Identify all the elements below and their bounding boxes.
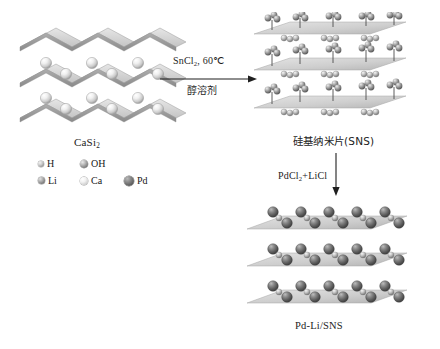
legend-label-pd: Pd bbox=[137, 175, 148, 186]
legend-item-h: H bbox=[38, 158, 80, 169]
reaction2-arrow bbox=[330, 153, 344, 197]
pd-layer-bottom bbox=[247, 281, 407, 303]
reaction1-reagent: SnCl2, 60℃ bbox=[173, 55, 224, 67]
reaction-scheme-canvas: CaSi2 H OH Li Ca Pd bbox=[0, 0, 440, 349]
sns-h-atoms bbox=[281, 35, 379, 42]
reaction1-condition: 醇溶剂 bbox=[187, 82, 218, 97]
ca-sphere-icon bbox=[80, 177, 88, 185]
legend-row: Li Ca Pd bbox=[38, 172, 198, 189]
legend-label-li: Li bbox=[48, 175, 57, 186]
sns-h-atoms bbox=[281, 109, 379, 116]
label-pd-li-sns: Pd-Li/SNS bbox=[295, 320, 343, 331]
legend-item-pd: Pd bbox=[124, 175, 148, 186]
label-sns: 硅基纳米片(SNS) bbox=[293, 133, 374, 148]
casi2-layer-bottom bbox=[20, 92, 186, 122]
h-sphere-icon bbox=[38, 161, 44, 167]
legend-row: H OH bbox=[38, 155, 198, 172]
sns-h-atoms bbox=[281, 71, 379, 78]
sns-layer-bottom bbox=[254, 79, 406, 116]
pd-sphere-icon bbox=[124, 176, 134, 186]
label-casi2: CaSi2 bbox=[74, 136, 100, 150]
legend-item-ca: Ca bbox=[80, 175, 124, 186]
legend-label-ca: Ca bbox=[91, 175, 102, 186]
structure-pd-li-sns bbox=[243, 198, 413, 320]
pd-layer-middle bbox=[247, 244, 407, 266]
legend-item-oh: OH bbox=[80, 158, 105, 169]
reaction2-reagent: PdCl2+LiCl bbox=[278, 170, 327, 182]
legend-label-h: H bbox=[47, 158, 54, 169]
legend-item-li: Li bbox=[38, 175, 80, 186]
structure-sns bbox=[248, 12, 413, 130]
sns-layer-middle bbox=[254, 41, 406, 78]
li-sphere-icon bbox=[38, 177, 45, 184]
oh-sphere-icon bbox=[80, 160, 88, 168]
pd-layer-top bbox=[247, 207, 407, 229]
legend: H OH Li Ca Pd bbox=[38, 155, 198, 189]
casi2-layer-top bbox=[20, 28, 186, 51]
sns-layer-top bbox=[254, 12, 406, 42]
legend-label-oh: OH bbox=[91, 158, 105, 169]
